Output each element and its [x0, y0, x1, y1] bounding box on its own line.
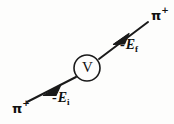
final-energy-subscript: f — [135, 44, 138, 54]
initial-energy-label: -Ei — [52, 91, 70, 107]
outgoing-particle-label: π+ — [12, 99, 30, 115]
outgoing-particle-symbol: π — [12, 101, 22, 116]
outgoing-particle-charge: + — [22, 98, 30, 108]
initial-energy-symbol: E — [58, 90, 67, 105]
initial-energy-subscript: i — [67, 97, 70, 107]
vertex-label: V — [75, 57, 100, 78]
incoming-particle-charge: + — [161, 5, 169, 15]
final-energy-label: -Ef — [120, 38, 138, 54]
incoming-particle-symbol: π — [151, 8, 161, 23]
final-energy-symbol: E — [126, 37, 135, 52]
incoming-particle-label: π+ — [151, 6, 169, 22]
feynman-vertex-diagram: V π+ π+ -Ef -Ei — [0, 0, 174, 124]
